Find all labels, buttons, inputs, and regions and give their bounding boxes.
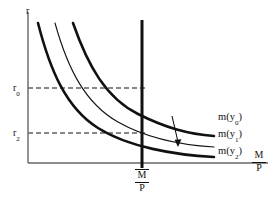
curve-label-m-y0-subscript: 0 [235,119,239,127]
money-supply-marker-fraction: M P [135,170,149,193]
x-axis-label-denominator: P [252,163,266,174]
y-tick-label-r2: r2 [13,128,20,141]
x-axis-label-fraction: M P [252,150,266,173]
money-supply-marker-denominator: P [135,183,149,194]
curve-label-m-y0-close: ) [238,111,242,122]
y-tick-r2-subscript: 2 [16,135,20,143]
y-axis-label: r [26,6,29,16]
curve-label-m-y1-base: m(y [218,128,235,139]
curve-label-m-y2-subscript: 2 [235,153,239,161]
x-axis-label-numerator: M [252,150,266,161]
curve-label-m-y1-close: ) [238,128,242,139]
curve-label-m-y2-close: ) [238,145,242,156]
money-supply-marker-numerator: M [135,170,149,181]
curve-label-m-y1-subscript: 1 [235,136,239,144]
curve-label-m-y2-base: m(y [218,145,235,156]
curve-m-y2 [38,23,214,157]
y-tick-r0-subscript: 0 [16,90,20,98]
curve-label-m-y0: m(y0) [218,112,242,125]
curve-label-m-y1: m(y1) [218,129,242,142]
curve-label-m-y2: m(y2) [218,146,242,159]
money-demand-diagram: r r0 r2 m(y0) m(y1) m(y2) M P M P [0,0,278,198]
y-tick-label-r0: r0 [13,83,20,96]
curve-label-m-y0-base: m(y [218,111,235,122]
